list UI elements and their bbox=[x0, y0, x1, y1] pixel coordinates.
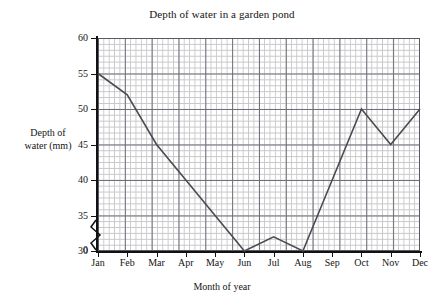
y-tick-label-50: 50 bbox=[48, 104, 88, 114]
y-tick-label-60: 60 bbox=[48, 33, 88, 43]
chart-title: Depth of water in a garden pond bbox=[0, 8, 444, 20]
y-axis-title-line1: Depth of bbox=[6, 126, 90, 139]
y-tick-40 bbox=[91, 180, 98, 181]
y-tick-label-0: 0 bbox=[48, 245, 88, 255]
chart-figure: Depth of water in a garden pond 30354045… bbox=[0, 0, 444, 305]
y-tick-35 bbox=[91, 216, 98, 217]
x-axis-line bbox=[96, 251, 422, 253]
y-tick-label-40: 40 bbox=[48, 175, 88, 185]
y-tick-0 bbox=[91, 251, 98, 252]
y-tick-60 bbox=[91, 38, 98, 39]
y-tick-55 bbox=[91, 74, 98, 75]
y-tick-45 bbox=[91, 145, 98, 146]
x-axis-title: Month of year bbox=[0, 281, 444, 292]
x-tick-label-dec: Dec bbox=[403, 257, 437, 269]
y-tick-label-55: 55 bbox=[48, 69, 88, 79]
data-series-line bbox=[98, 38, 420, 251]
y-axis-title-line2: water (mm) bbox=[6, 139, 90, 152]
y-tick-label-35: 35 bbox=[48, 211, 88, 221]
y-tick-50 bbox=[91, 109, 98, 110]
y-axis-title: Depth of water (mm) bbox=[6, 126, 90, 152]
